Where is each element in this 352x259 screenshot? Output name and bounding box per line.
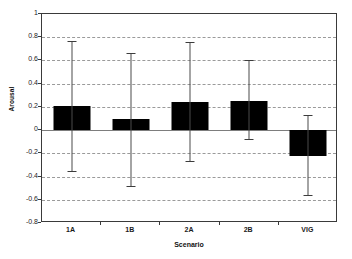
bar-group	[279, 14, 338, 221]
x-axis-tick-mark	[159, 222, 160, 225]
y-axis-tick-label: -0.4	[4, 172, 38, 180]
bar-group	[160, 14, 219, 221]
error-bar-cap-upper	[126, 53, 135, 54]
x-axis-tick-mark	[278, 222, 279, 225]
x-axis-tick-mark	[219, 222, 220, 225]
y-axis-tick-label: 0	[4, 125, 38, 133]
x-axis-tick-label: 1B	[100, 225, 159, 234]
y-axis-tick-label: 0.8	[4, 32, 38, 40]
bar-group	[42, 14, 101, 221]
error-bar-cap-upper	[304, 115, 313, 116]
x-axis-tick-mark	[100, 222, 101, 225]
y-axis-tick-mark	[38, 222, 41, 223]
error-bar-cap-lower	[67, 171, 76, 172]
bar-group	[101, 14, 160, 221]
bar-group	[220, 14, 279, 221]
x-axis-tick-label: 2B	[219, 225, 278, 234]
error-bar-line	[189, 42, 190, 162]
plot-area	[41, 13, 337, 222]
y-axis-tick-label: 1	[4, 9, 38, 17]
error-bar-cap-lower	[304, 195, 313, 196]
error-bar-line	[130, 53, 131, 185]
y-axis-tick-labels: 10.80.60.40.20-0.2-0.4-0.6-0.8	[0, 13, 38, 222]
y-axis-tick-label: 0.4	[4, 79, 38, 87]
x-axis-tick-labels: 1A1B2A2BVIG	[41, 225, 337, 237]
error-bar-line	[249, 60, 250, 139]
error-bar-line	[71, 41, 72, 171]
bar-chart-figure: Arousal 10.80.60.40.20-0.2-0.4-0.6-0.8 1…	[0, 0, 352, 259]
error-bar-cap-lower	[245, 139, 254, 140]
y-axis-tick-label: 0.6	[4, 55, 38, 63]
error-bar-cap-lower	[126, 186, 135, 187]
x-axis-tick-label: 2A	[159, 225, 218, 234]
error-bar-cap-upper	[245, 60, 254, 61]
x-axis-tick-label: 1A	[41, 225, 100, 234]
error-bar-cap-upper	[67, 41, 76, 42]
y-axis-tick-label: -0.2	[4, 148, 38, 156]
error-bar-cap-upper	[185, 42, 194, 43]
y-axis-tick-label: -0.6	[4, 195, 38, 203]
y-axis-tick-label: 0.2	[4, 102, 38, 110]
x-axis-title: Scenario	[41, 240, 337, 249]
error-bar-line	[308, 115, 309, 195]
x-axis-tick-label: VIG	[278, 225, 337, 234]
error-bar-cap-lower	[185, 161, 194, 162]
y-axis-tick-label: -0.8	[4, 218, 38, 226]
